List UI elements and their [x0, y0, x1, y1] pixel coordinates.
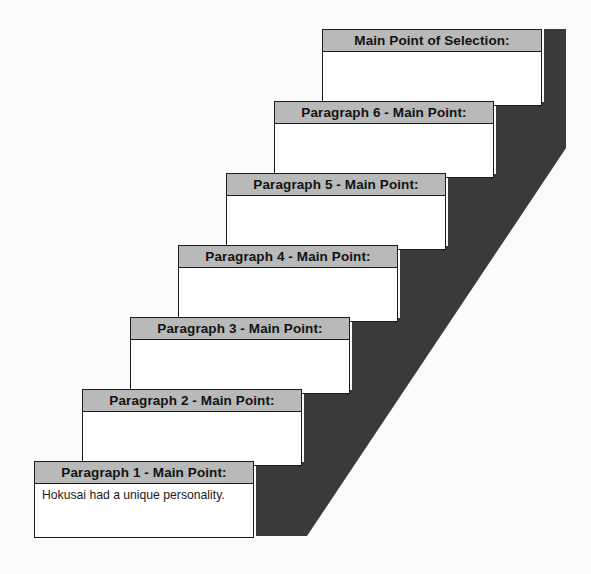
step-box-paragraph-1[interactable]: Paragraph 1 - Main Point: Hokusai had a … [34, 461, 254, 538]
step-box-paragraph-4[interactable]: Paragraph 4 - Main Point: [178, 245, 398, 322]
step-body-paragraph-2[interactable] [83, 412, 301, 465]
step-header-paragraph-6: Paragraph 6 - Main Point: [275, 102, 493, 124]
step-box-selection[interactable]: Main Point of Selection: [322, 29, 542, 106]
step-header-paragraph-1: Paragraph 1 - Main Point: [35, 462, 253, 484]
step-box-paragraph-2[interactable]: Paragraph 2 - Main Point: [82, 389, 302, 466]
step-header-paragraph-4: Paragraph 4 - Main Point: [179, 246, 397, 268]
step-header-paragraph-3: Paragraph 3 - Main Point: [131, 318, 349, 340]
step-body-paragraph-5[interactable] [227, 196, 445, 249]
step-header-paragraph-2: Paragraph 2 - Main Point: [83, 390, 301, 412]
step-header-selection: Main Point of Selection: [323, 30, 541, 52]
step-body-paragraph-6[interactable] [275, 124, 493, 177]
staircase-diagram-canvas: Main Point of Selection: Paragraph 6 - M… [0, 0, 591, 574]
step-body-paragraph-4[interactable] [179, 268, 397, 321]
step-body-paragraph-1[interactable]: Hokusai had a unique personality. [35, 484, 253, 537]
step-box-paragraph-3[interactable]: Paragraph 3 - Main Point: [130, 317, 350, 394]
step-body-text-paragraph-1: Hokusai had a unique personality. [42, 487, 246, 503]
step-body-selection[interactable] [323, 52, 541, 105]
step-body-paragraph-3[interactable] [131, 340, 349, 393]
step-box-paragraph-6[interactable]: Paragraph 6 - Main Point: [274, 101, 494, 178]
step-box-paragraph-5[interactable]: Paragraph 5 - Main Point: [226, 173, 446, 250]
step-header-paragraph-5: Paragraph 5 - Main Point: [227, 174, 445, 196]
